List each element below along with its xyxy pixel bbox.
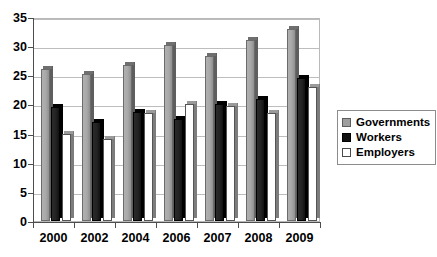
y-axis-tick-label: 35 <box>1 12 27 25</box>
x-axis-tick <box>238 223 239 228</box>
y-axis-tick <box>28 105 33 106</box>
y-axis-tick <box>28 135 33 136</box>
bar-face <box>92 122 101 221</box>
bar-workers-2009 <box>297 78 306 221</box>
bar-face <box>226 106 235 221</box>
gridline <box>34 106 319 107</box>
bar-side-face <box>317 84 320 218</box>
bar-side-face <box>71 131 74 218</box>
bar-face <box>123 65 132 221</box>
bar-top-cap <box>289 26 298 29</box>
bar-workers-2004 <box>133 112 142 221</box>
y-axis-tick-label: 0 <box>1 216 27 229</box>
bar-employers-2004 <box>144 113 153 221</box>
bar-face <box>103 139 112 221</box>
bar-top-cap <box>248 37 257 40</box>
bar-top-cap <box>187 101 196 104</box>
y-axis-labels: 05101520253035 <box>0 0 27 257</box>
x-axis-tick-label: 2004 <box>115 232 156 245</box>
plot-area <box>33 18 320 222</box>
bar-employers-2002 <box>103 139 112 221</box>
bar-side-face <box>153 110 156 218</box>
legend-item-governments: Governments <box>342 115 430 130</box>
y-axis-tick-label: 15 <box>1 129 27 142</box>
y-axis-tick-label: 20 <box>1 99 27 112</box>
bar-governments-2000 <box>41 69 50 221</box>
bar-top-cap <box>310 84 319 87</box>
bar-workers-2006 <box>174 119 183 221</box>
bar-face <box>308 87 317 221</box>
bar-top-cap <box>135 109 144 112</box>
bar-employers-2008 <box>267 113 276 221</box>
y-axis-tick <box>28 18 33 19</box>
bar-governments-2004 <box>123 65 132 221</box>
bar-employers-2006 <box>185 104 194 221</box>
bar-chart: 05101520253035 2000200220042006200720082… <box>0 0 437 257</box>
bar-face <box>205 56 214 221</box>
bar-workers-2008 <box>256 99 265 221</box>
x-axis-tick-label: 2008 <box>238 232 279 245</box>
legend-item-employers: Employers <box>342 145 430 160</box>
legend-label-governments: Governments <box>356 117 430 129</box>
governments-swatch-icon <box>342 118 351 127</box>
x-axis-tick <box>74 223 75 228</box>
bar-face <box>215 104 224 221</box>
bar-top-cap <box>166 42 175 45</box>
bar-top-cap <box>207 53 216 56</box>
x-axis-tick <box>320 223 321 228</box>
bar-side-face <box>194 101 197 218</box>
bar-top-cap <box>299 75 308 78</box>
bar-governments-2009 <box>287 29 296 221</box>
x-axis-tick <box>197 223 198 228</box>
y-axis-tick-label: 30 <box>1 41 27 54</box>
x-axis-tick-label: 2009 <box>279 232 320 245</box>
bar-workers-2000 <box>51 107 60 221</box>
gridline <box>34 77 319 78</box>
x-axis-tick <box>33 223 34 228</box>
y-axis-tick-label: 10 <box>1 158 27 171</box>
bar-top-cap <box>258 96 267 99</box>
bar-workers-2002 <box>92 122 101 221</box>
bar-governments-2006 <box>164 45 173 221</box>
x-axis-tick <box>115 223 116 228</box>
bar-face <box>144 113 153 221</box>
workers-swatch-icon <box>342 133 351 142</box>
y-axis-tick <box>28 47 33 48</box>
y-axis-tick-label: 5 <box>1 187 27 200</box>
bar-face <box>185 104 194 221</box>
x-axis-tick <box>156 223 157 228</box>
bar-top-cap <box>269 110 278 113</box>
gridline <box>34 48 319 49</box>
bar-face <box>41 69 50 221</box>
bar-face <box>297 78 306 221</box>
bar-face <box>174 119 183 221</box>
bar-top-cap <box>105 136 114 139</box>
bar-face <box>164 45 173 221</box>
bar-side-face <box>276 110 279 218</box>
legend-label-employers: Employers <box>356 147 415 159</box>
bar-face <box>267 113 276 221</box>
x-axis-tick-label: 2002 <box>74 232 115 245</box>
bar-face <box>51 107 60 221</box>
bar-top-cap <box>84 71 93 74</box>
bar-governments-2007 <box>205 56 214 221</box>
bar-top-cap <box>53 104 62 107</box>
y-axis-tick <box>28 164 33 165</box>
bar-employers-2009 <box>308 87 317 221</box>
bar-top-cap <box>228 103 237 106</box>
gridline <box>34 19 319 20</box>
bar-top-cap <box>64 131 73 134</box>
bar-face <box>133 112 142 221</box>
y-axis-tick <box>28 76 33 77</box>
y-axis-tick-label: 25 <box>1 70 27 83</box>
x-axis-line <box>33 222 321 223</box>
legend-label-workers: Workers <box>356 132 402 144</box>
bar-top-cap <box>125 62 134 65</box>
bar-employers-2000 <box>62 134 71 221</box>
bar-workers-2007 <box>215 104 224 221</box>
bar-side-face <box>235 103 238 218</box>
bar-employers-2007 <box>226 106 235 221</box>
bar-top-cap <box>43 66 52 69</box>
bar-top-cap <box>146 110 155 113</box>
x-axis-tick <box>279 223 280 228</box>
